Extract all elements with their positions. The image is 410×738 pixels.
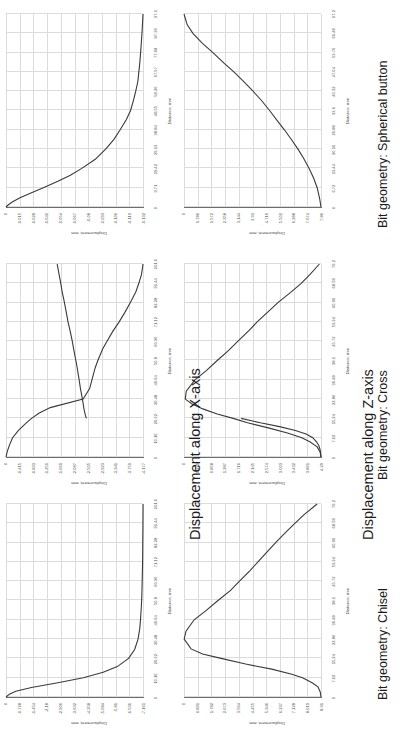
x-tick-label: 20.32 xyxy=(154,414,158,424)
plot-area xyxy=(184,504,322,698)
x-tick-label: 47.04 xyxy=(332,67,336,77)
x-tick-label: 10.16 xyxy=(154,673,158,683)
x-tick-label: 0 xyxy=(154,697,158,699)
y-tick-label: 0.786 xyxy=(196,213,200,223)
y-axis-ticks: 00.7861.5722.3583.1443.934.7165.5026.288… xyxy=(184,210,322,248)
x-tick-label: 53.76 xyxy=(332,48,336,58)
y-tick-label: 4.455 xyxy=(251,703,255,713)
x-axis-title: Distance, mm xyxy=(346,264,350,458)
y-tick-label: 8.91 xyxy=(320,703,324,711)
x-tick-label: 87.39 xyxy=(154,28,158,38)
x-tick-label: 10.16 xyxy=(154,433,158,443)
y-tick-label: -0.106 xyxy=(114,213,118,225)
plot-area xyxy=(184,14,322,208)
y-tick-label: -1.669 xyxy=(59,463,63,475)
y-axis-ticks: 0-0.015-0.028-0.041-0.054-0.067-0.08-0.0… xyxy=(6,210,144,248)
plot-area xyxy=(6,504,144,698)
x-tick-label: 38.1 xyxy=(332,597,336,605)
series-curve xyxy=(6,504,143,697)
y-tick-label: -2.087 xyxy=(73,463,77,475)
x-tick-label: 76.2 xyxy=(332,500,336,508)
x-tick-label: 97.1 xyxy=(154,10,158,18)
y-tick-label: 0 xyxy=(182,703,186,705)
y-tick-label: 1.572 xyxy=(210,213,214,223)
y-axis-ticks: 00.8911.7822.6733.5644.4555.3466.2377.12… xyxy=(184,700,322,738)
x-tick-label: 53.34 xyxy=(332,317,336,327)
x-tick-label: 60.96 xyxy=(154,576,158,586)
y-axis-title: Displacement, mm xyxy=(222,721,312,725)
section-title-z-axis: Displacement along Z-axis xyxy=(361,369,376,540)
series-curve xyxy=(6,14,143,207)
y-tick-label: -0.833 xyxy=(32,463,36,475)
plot-area xyxy=(6,264,144,458)
x-tick-label: 7.62 xyxy=(332,675,336,683)
y-tick-label: 0 xyxy=(4,213,8,215)
x-tick-label: 50.8 xyxy=(154,597,158,605)
y-tick-label: -1.454 xyxy=(32,703,36,715)
x-tick-label: 76.2 xyxy=(332,260,336,268)
y-tick-label: 0 xyxy=(4,703,8,705)
x-tick-label: 38.1 xyxy=(332,357,336,365)
x-tick-label: 68.58 xyxy=(332,518,336,528)
y-axis-title: Displacement, mm xyxy=(44,721,134,725)
plot-area xyxy=(6,14,144,208)
section-title-x-axis: Displacement along X-axis xyxy=(188,368,203,540)
y-tick-label: 4.716 xyxy=(265,213,269,223)
x-tick-label: 29.13 xyxy=(154,145,158,155)
y-tick-label: -0.041 xyxy=(45,213,49,225)
x-tick-label: 40.32 xyxy=(332,86,336,96)
x-tick-label: 77.68 xyxy=(154,48,158,58)
x-tick-label: 15.24 xyxy=(332,414,336,424)
y-tick-label: 2.358 xyxy=(223,213,227,223)
x-tick-label: 101.6 xyxy=(154,499,158,509)
x-axis-title: Distance, mm xyxy=(168,264,172,458)
x-tick-label: 0 xyxy=(332,207,336,209)
y-tick-label: 7.074 xyxy=(306,213,310,223)
y-tick-label: 7.128 xyxy=(292,703,296,713)
x-tick-label: 20.16 xyxy=(332,145,336,155)
series-curve xyxy=(184,14,321,207)
y-axis-title: Displacement, mm xyxy=(44,231,134,235)
x-axis-title: Distance, mm xyxy=(346,14,350,208)
x-tick-label: 82.28 xyxy=(154,538,158,548)
x-tick-label: 33.6 xyxy=(332,107,336,115)
chart-panel-x-cross: 0-0.415-0.833-1.251-1.669-2.087-2.505-2.… xyxy=(0,258,178,498)
chart-panel-x-spherical: 0-0.015-0.028-0.041-0.054-0.067-0.08-0.0… xyxy=(0,8,178,248)
x-axis-ticks: 06.7213.4420.1626.8833.640.3247.0453.766… xyxy=(322,14,336,208)
x-axis-title: Distance, mm xyxy=(346,504,350,698)
x-tick-label: 6.72 xyxy=(332,185,336,193)
y-axis-title: Displacement, mm xyxy=(44,481,134,485)
chart-panel-z-chisel: 00.8911.7822.6733.5644.4555.3466.2377.12… xyxy=(178,498,356,738)
x-tick-label: 67.2 xyxy=(332,10,336,18)
y-tick-label: 7.86 xyxy=(320,213,324,221)
geometry-label-cross: Bit geometry: Cross xyxy=(377,370,390,480)
x-tick-label: 45.72 xyxy=(332,576,336,586)
y-tick-label: -3.632 xyxy=(73,703,77,715)
x-tick-label: 48.55 xyxy=(154,106,158,116)
y-tick-label: -0.415 xyxy=(18,463,22,475)
geometry-label-spherical: Bit geometry: Spherical button xyxy=(377,61,390,228)
y-tick-label: 3.144 xyxy=(237,213,241,223)
x-tick-label: 9.71 xyxy=(154,185,158,193)
y-tick-label: -3.341 xyxy=(114,463,118,475)
x-tick-label: 60.96 xyxy=(154,336,158,346)
x-tick-label: 26.88 xyxy=(332,125,336,135)
y-axis-title: Displacement, mm xyxy=(222,481,312,485)
x-tick-label: 82.28 xyxy=(154,298,158,308)
y-tick-label: -0.728 xyxy=(18,703,22,715)
x-axis-ticks: 010.1620.3230.4840.6450.860.9671.1282.28… xyxy=(144,504,158,698)
y-tick-label: 3.861 xyxy=(306,463,310,473)
x-tick-label: 91.44 xyxy=(154,518,158,528)
y-axis-ticks: 0-0.728-1.454-2.18-2.906-3.632-4.358-5.0… xyxy=(6,700,144,738)
y-tick-label: -0.119 xyxy=(128,213,132,224)
y-tick-label: -4.358 xyxy=(87,703,91,715)
y-tick-label: 2.673 xyxy=(223,703,227,713)
x-tick-label: 30.48 xyxy=(154,395,158,405)
y-axis-ticks: 00.4290.8581.2871.7162.1452.5743.0033.43… xyxy=(184,460,322,498)
y-tick-label: 5.346 xyxy=(265,703,269,713)
x-tick-label: 13.44 xyxy=(332,164,336,174)
y-tick-label: 8.019 xyxy=(306,703,310,713)
y-tick-label: 6.237 xyxy=(279,703,283,713)
y-tick-label: 3.564 xyxy=(237,703,241,713)
y-tick-label: 3.003 xyxy=(279,463,283,473)
